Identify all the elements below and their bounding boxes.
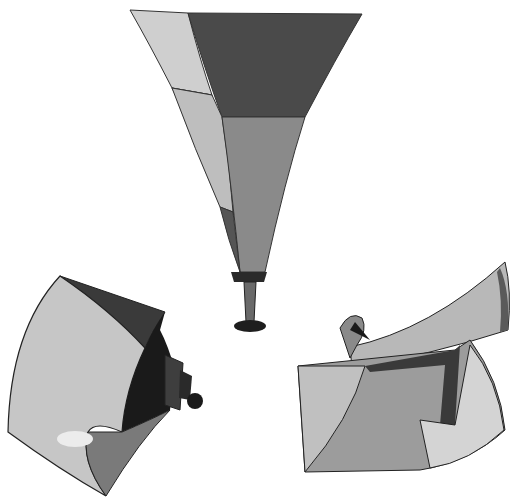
horns-illustration xyxy=(0,0,518,501)
radial-horn-right xyxy=(298,262,509,472)
conical-vertical-horn xyxy=(130,10,362,332)
figure-canvas: Three horn loudspeaker/antenna shapes xyxy=(0,0,518,501)
curved-sectoral-horn-left xyxy=(8,276,203,496)
